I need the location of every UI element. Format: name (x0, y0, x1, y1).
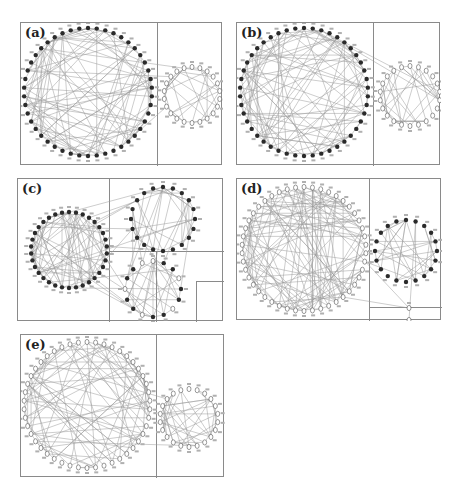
edge (402, 84, 438, 125)
node-label (172, 183, 176, 185)
node-open (45, 451, 49, 456)
node-label (433, 229, 437, 231)
node-filled (29, 244, 33, 248)
edge (71, 71, 149, 154)
node-open (144, 423, 148, 428)
node-label (275, 28, 279, 30)
node-label (145, 435, 149, 437)
node-open (161, 427, 165, 432)
node-filled (36, 271, 40, 275)
node-filled (151, 186, 155, 190)
edge (31, 376, 150, 409)
node-label (153, 409, 157, 411)
node-label (128, 457, 132, 459)
node-filled (47, 215, 51, 219)
node-label (260, 196, 264, 198)
node-open (34, 366, 38, 371)
node-label (136, 44, 140, 46)
node-label (169, 388, 173, 390)
node-label (94, 471, 98, 473)
node-filled (25, 111, 29, 115)
node-label (126, 207, 130, 209)
node-open (26, 423, 30, 428)
node-filled (238, 94, 242, 98)
node-filled (433, 258, 437, 262)
node-label (358, 51, 362, 53)
node-label (376, 110, 380, 112)
node-open (310, 185, 314, 190)
node-label (311, 23, 315, 25)
node-label (275, 187, 279, 189)
node-filled (293, 153, 297, 157)
node-filled (191, 227, 195, 231)
node-label (126, 229, 130, 231)
node-open (392, 68, 396, 73)
node-label (367, 68, 371, 70)
node-filled (250, 53, 254, 57)
node-label (21, 114, 25, 116)
node-open (378, 89, 382, 94)
node-filled (41, 276, 45, 280)
edge (287, 71, 365, 154)
node-filled (366, 94, 370, 98)
node-filled (386, 224, 390, 228)
node-label (38, 281, 42, 283)
node-filled (161, 185, 165, 189)
node-filled (362, 68, 366, 72)
node-label (147, 59, 151, 61)
node-label (302, 315, 306, 317)
node-label (35, 450, 39, 452)
node-label (58, 342, 62, 344)
node-label (26, 237, 30, 239)
node-open (385, 74, 389, 79)
node-open (294, 185, 298, 190)
node-filled (77, 153, 81, 157)
node-label (50, 150, 54, 152)
node-label (246, 131, 250, 133)
node-filled (404, 280, 408, 284)
node-label (112, 342, 116, 344)
node-label (363, 123, 367, 125)
node-label (157, 89, 161, 91)
node-open (175, 116, 179, 121)
node-open (213, 403, 217, 408)
node-open (205, 69, 209, 74)
node-open (141, 373, 145, 378)
node-label (415, 284, 419, 286)
node-label (58, 466, 62, 468)
node-label (50, 462, 54, 464)
node-label (311, 182, 315, 184)
node-label (440, 80, 441, 82)
node-open (363, 234, 367, 239)
node-filled (45, 139, 49, 143)
node-filled (146, 111, 150, 115)
node-label (243, 279, 247, 281)
node-label (160, 80, 164, 82)
node-filled (150, 85, 154, 89)
node-label (147, 123, 151, 125)
node-label (181, 62, 185, 64)
node-open (334, 193, 338, 198)
node-filled (293, 26, 297, 30)
node-label (110, 253, 114, 255)
node-filled (327, 31, 331, 35)
node-filled (422, 224, 426, 228)
node-label (283, 157, 287, 159)
panel-label: (c) (22, 181, 42, 196)
node-filled (53, 283, 57, 287)
node-label (21, 105, 22, 107)
node-filled (269, 35, 273, 39)
node-label (329, 309, 333, 311)
node-label (183, 188, 187, 190)
node-filled (34, 127, 38, 131)
node-label (427, 124, 431, 126)
node-label (320, 183, 324, 185)
node-open (438, 98, 441, 103)
node-open (102, 342, 106, 347)
node-label (29, 443, 33, 445)
node-label (25, 59, 29, 61)
node-filled (180, 191, 184, 195)
node-open (85, 465, 89, 470)
node-label (187, 383, 191, 385)
node-label (208, 66, 212, 68)
